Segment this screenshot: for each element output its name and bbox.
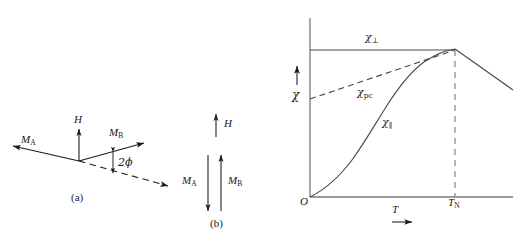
panel-a-vectors (13, 129, 168, 186)
vector-m-b (79, 143, 144, 161)
origin-label: O (300, 196, 308, 207)
series-chi-polycrystalline (310, 50, 455, 99)
chi-pc-label: χpc (357, 87, 373, 98)
y-axis-label: χ (292, 89, 299, 101)
chi-parallel-label: χ∥ (382, 117, 392, 128)
label-m-a-panel-a: MA (21, 134, 36, 145)
panel-tag-a: (a) (71, 192, 83, 203)
label-m-b-panel-a: MB (109, 127, 123, 138)
paramagnetic-descent-branch (455, 49, 513, 90)
label-h-panel-a: H (74, 114, 82, 125)
panel-b-vectors (208, 114, 221, 211)
label-angle-2phi: 2ϕ (118, 157, 133, 168)
neel-temperature-tick-label: TN (448, 197, 460, 208)
x-axis-label: T (392, 204, 398, 215)
label-h-panel-b: H (224, 118, 232, 129)
label-m-a-panel-b: MA (182, 175, 197, 186)
chart-axes (310, 18, 513, 197)
figure-container: MA H MB 2ϕ (a) H MA MB (b) (0, 0, 519, 237)
label-m-b-panel-b: MB (228, 175, 242, 186)
panel-tag-b: (b) (210, 218, 223, 229)
vector-m-a (13, 146, 79, 161)
chi-perp-label: χ⊥ (365, 32, 379, 43)
